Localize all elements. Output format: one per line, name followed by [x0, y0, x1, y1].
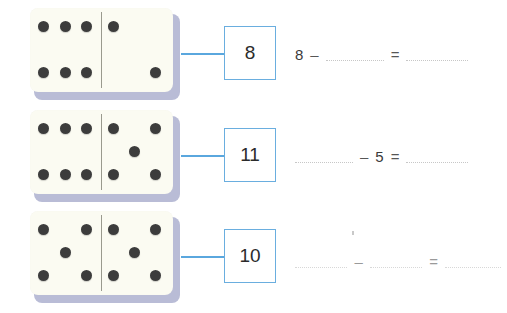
print-speck [352, 231, 354, 235]
domino-pip [60, 123, 71, 134]
domino-pip [60, 247, 71, 258]
domino-pip [60, 67, 71, 78]
domino-pip [150, 169, 161, 180]
minus-sign: – [350, 253, 366, 270]
domino-pip [150, 67, 161, 78]
domino-pip [81, 224, 92, 235]
domino-face [30, 110, 173, 194]
domino-pip [150, 224, 161, 235]
answer-box[interactable]: 10 [224, 229, 276, 283]
domino-pip [108, 123, 119, 134]
equals-sign: = [387, 46, 404, 63]
equation-middle-number: 5 [372, 148, 386, 165]
domino-pip [81, 169, 92, 180]
connector-line [181, 53, 224, 55]
equation-blank-3[interactable] [445, 254, 501, 268]
domino-pip [60, 169, 71, 180]
domino-pip [38, 21, 49, 32]
domino-pip [38, 169, 49, 180]
domino-half-right [102, 110, 173, 194]
equation-blank-2[interactable] [370, 254, 422, 268]
domino-half-left [30, 110, 101, 194]
connector-line [181, 256, 224, 258]
domino-pip [81, 67, 92, 78]
minus-sign: – [356, 148, 372, 165]
domino-pip [81, 270, 92, 281]
domino-tile [30, 211, 180, 303]
domino-pip [60, 21, 71, 32]
equation: – = [292, 245, 504, 277]
domino-pip [108, 224, 119, 235]
domino-pip [81, 123, 92, 134]
connector-line [181, 155, 224, 157]
domino-pip [38, 123, 49, 134]
domino-half-right [102, 8, 173, 92]
domino-pip [38, 224, 49, 235]
domino-pip [108, 169, 119, 180]
domino-pip [129, 146, 140, 157]
equation-blank-1[interactable] [295, 149, 353, 163]
domino-tile [30, 8, 180, 100]
domino-pip [129, 247, 140, 258]
equation-blank-1[interactable] [326, 47, 384, 61]
domino-pip [150, 123, 161, 134]
exercise-row: 11 – 5 = [0, 110, 507, 206]
equation: – 5 = [292, 140, 504, 172]
domino-half-left [30, 211, 101, 295]
domino-half-right [102, 211, 173, 295]
equation-blank-2[interactable] [406, 149, 468, 163]
domino-pip [108, 21, 119, 32]
answer-box[interactable]: 8 [224, 26, 276, 80]
equals-sign: = [425, 253, 442, 270]
exercise-row: 8 8 – = [0, 8, 507, 104]
equation-first-number: 8 [292, 46, 306, 63]
equation-blank-2[interactable] [406, 47, 468, 61]
domino-pip [38, 67, 49, 78]
answer-box[interactable]: 11 [224, 128, 276, 182]
domino-pip [81, 21, 92, 32]
domino-pip [38, 270, 49, 281]
equation-blank-1[interactable] [295, 254, 347, 268]
domino-pip [108, 270, 119, 281]
equation: 8 – = [292, 38, 504, 70]
domino-face [30, 8, 173, 92]
minus-sign: – [306, 46, 322, 63]
equals-sign: = [387, 148, 404, 165]
domino-half-left [30, 8, 101, 92]
domino-pip [150, 270, 161, 281]
domino-tile [30, 110, 180, 202]
domino-face [30, 211, 173, 295]
exercise-row: 10 – = [0, 211, 507, 307]
